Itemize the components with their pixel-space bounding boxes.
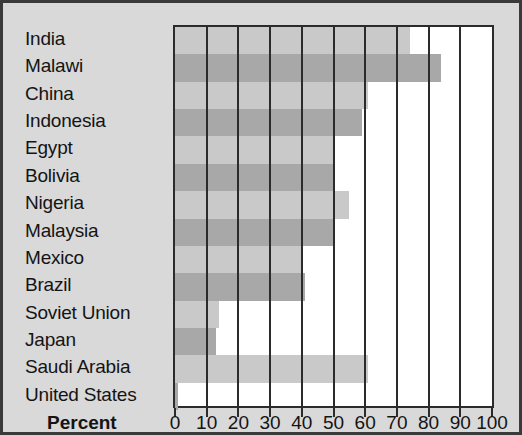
bar <box>175 54 441 81</box>
gridline <box>333 27 335 406</box>
x-tick-label: 100 <box>476 412 508 434</box>
category-label: Indonesia <box>25 107 106 134</box>
category-label: China <box>25 80 74 107</box>
plot-area <box>173 25 494 408</box>
category-label: Nigeria <box>25 189 84 216</box>
x-tick-label: 50 <box>323 412 344 434</box>
gridline <box>459 27 461 406</box>
gridline <box>428 27 430 406</box>
category-axis-labels: IndiaMalawiChinaIndonesiaEgyptBoliviaNig… <box>3 25 171 408</box>
bar <box>175 328 216 355</box>
gridline <box>269 27 271 406</box>
bar <box>175 191 349 218</box>
x-tick-label: 90 <box>450 412 471 434</box>
category-label: Japan <box>25 326 76 353</box>
x-axis-title: Percent <box>47 412 117 434</box>
x-tick-label: 30 <box>260 412 281 434</box>
chart-frame: IndiaMalawiChinaIndonesiaEgyptBoliviaNig… <box>0 0 522 435</box>
bar <box>175 136 334 163</box>
bar <box>175 164 334 191</box>
bar <box>175 27 410 54</box>
x-tick-label: 80 <box>418 412 439 434</box>
bar <box>175 273 305 300</box>
x-tick-label: 40 <box>291 412 312 434</box>
category-label: Brazil <box>25 271 71 298</box>
x-tick-label: 0 <box>170 412 181 434</box>
category-label: Bolivia <box>25 162 80 189</box>
bar <box>175 383 178 410</box>
category-label: Soviet Union <box>25 299 130 326</box>
gridline <box>396 27 398 406</box>
bar <box>175 355 368 382</box>
gridline <box>237 27 239 406</box>
gridline <box>301 27 303 406</box>
x-tick-label: 70 <box>386 412 407 434</box>
category-label: Mexico <box>25 244 84 271</box>
category-label: United States <box>25 381 136 408</box>
x-tick-label: 20 <box>228 412 249 434</box>
category-label: India <box>25 25 65 52</box>
x-tick-label: 10 <box>196 412 217 434</box>
category-label: Saudi Arabia <box>25 353 130 380</box>
bar <box>175 219 334 246</box>
bar <box>175 82 368 109</box>
category-label: Egypt <box>25 134 73 161</box>
gridline <box>206 27 208 406</box>
category-label: Malaysia <box>25 217 98 244</box>
bar <box>175 301 219 328</box>
gridline <box>364 27 366 406</box>
x-tick-label: 60 <box>355 412 376 434</box>
category-label: Malawi <box>25 52 83 79</box>
